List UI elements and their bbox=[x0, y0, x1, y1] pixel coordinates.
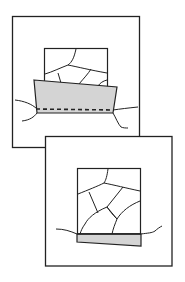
panel-bottom bbox=[46, 137, 173, 267]
diagram-canvas bbox=[0, 0, 185, 282]
diagram-svg bbox=[0, 0, 185, 282]
panel-top bbox=[13, 17, 140, 148]
bottom-inner-box bbox=[78, 169, 141, 235]
